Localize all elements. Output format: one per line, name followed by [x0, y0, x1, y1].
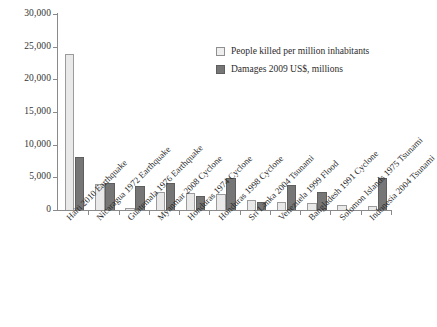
legend-swatch-damages-icon [216, 65, 225, 74]
legend-item-damages[interactable]: Damages 2009 US$, millions [216, 64, 369, 74]
legend-label-killed: People killed per million inhabitants [231, 46, 369, 56]
y-axis-tick-label: 25,000 [5, 42, 51, 52]
x-axis-tick [88, 211, 89, 215]
legend-swatch-killed-icon [216, 47, 225, 56]
y-axis-tick-label: 20,000 [5, 74, 51, 84]
x-axis-tick [361, 211, 362, 215]
x-axis-tick [149, 211, 150, 215]
legend-label-damages: Damages 2009 US$, millions [231, 64, 343, 74]
x-axis-tick [270, 211, 271, 215]
y-axis-tick-label: 10,000 [5, 140, 51, 150]
x-axis-tick [330, 211, 331, 215]
legend-item-killed[interactable]: People killed per million inhabitants [216, 46, 369, 56]
y-axis-tick-label: 0 [5, 205, 51, 215]
x-axis-tick [240, 211, 241, 215]
x-axis-tick [179, 211, 180, 215]
bar-group [58, 14, 88, 210]
y-axis-tick-label: 5,000 [5, 172, 51, 182]
bar-killed[interactable] [65, 54, 75, 210]
x-axis-tick [300, 211, 301, 215]
x-axis-tick [209, 211, 210, 215]
y-axis-tick-label: 15,000 [5, 107, 51, 117]
x-axis-tick [119, 211, 120, 215]
x-axis-tick [391, 211, 392, 215]
chart-legend: People killed per million inhabitants Da… [216, 46, 369, 82]
y-axis-tick-label: 30,000 [5, 9, 51, 19]
